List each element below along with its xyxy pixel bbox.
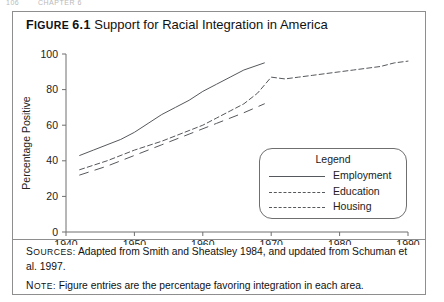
legend-item-education: Education (269, 185, 401, 200)
page-number: 106 (6, 0, 19, 6)
legend-swatch-housing (269, 207, 325, 208)
series-line-employment (80, 63, 265, 156)
chart-legend: Legend Employment Education Housing (259, 148, 407, 219)
y-tick-100: 100 (40, 48, 58, 60)
y-tick-60: 60 (46, 119, 58, 131)
note-kicker-initial: N (26, 280, 34, 291)
legend-label-housing: Housing (333, 200, 372, 212)
figure-notes: Sources: Adapted from Smith and Sheatsle… (26, 245, 416, 294)
figure-label-word: IGURE (34, 19, 69, 31)
page-running-head: 106 CHAPTER 6 (0, 0, 444, 11)
legend-swatch-education (269, 192, 325, 193)
legend-title: Legend (260, 153, 406, 165)
legend-swatch-employment (269, 176, 325, 177)
sources-note: Sources: Adapted from Smith and Sheatsle… (26, 245, 416, 273)
note-kicker: Note: (26, 281, 56, 291)
legend-label-education: Education (333, 185, 380, 197)
y-tick-40: 40 (46, 154, 58, 166)
y-tick-20: 20 (46, 190, 58, 202)
y-axis-ticks (62, 54, 66, 232)
y-axis-tick-labels: 020406080100 (40, 48, 58, 238)
x-axis-ticks (66, 232, 408, 236)
figure-title-text: Support for Racial Integration in Americ… (94, 17, 327, 32)
sources-kicker-rest: ources: (33, 247, 75, 257)
legend-item-housing: Housing (269, 200, 401, 215)
y-tick-80: 80 (46, 83, 58, 95)
running-title: CHAPTER 6 (38, 0, 82, 6)
y-tick-0: 0 (52, 226, 58, 238)
notes-divider (13, 239, 425, 240)
figure-label: FIGURE 6.1 (26, 19, 91, 31)
figure-label-initial: F (26, 18, 34, 32)
figure-number: 6.1 (72, 18, 90, 32)
figure-container: FIGURE 6.1 Support for Racial Integratio… (12, 11, 426, 295)
note-text: Figure entries are the percentage favori… (59, 280, 364, 291)
legend-item-employment: Employment (269, 169, 401, 184)
series-line-housing (80, 104, 265, 175)
legend-label-employment: Employment (333, 169, 391, 181)
note-note: Note: Figure entries are the percentage … (26, 279, 416, 294)
y-axis-title: Percentage Positive (20, 96, 32, 190)
note-kicker-rest: ote: (34, 281, 56, 291)
figure-caption: FIGURE 6.1 Support for Racial Integratio… (26, 17, 328, 32)
sources-note-text: Adapted from Smith and Sheatsley 1984, a… (26, 246, 407, 272)
sources-note-kicker: Sources: (26, 247, 76, 257)
